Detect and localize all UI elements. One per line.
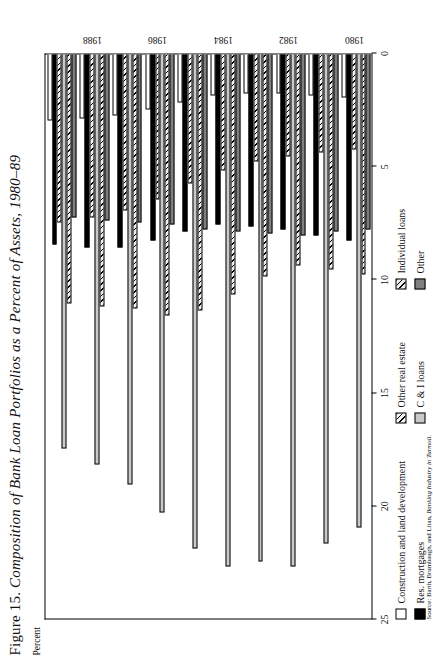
- bar: [192, 54, 197, 548]
- bar: [177, 54, 182, 102]
- bar: [230, 54, 235, 294]
- source-note: Source: Barth, Brumbaugh, and Litan, Ban…: [424, 434, 431, 619]
- value-tick-label: 5: [378, 164, 389, 169]
- bar: [248, 54, 253, 226]
- bar: [280, 54, 285, 229]
- bar: [267, 54, 272, 233]
- bar: [145, 54, 150, 109]
- bars-container: [45, 54, 371, 618]
- bar: [159, 54, 164, 512]
- value-axis: 0510152025: [371, 53, 372, 619]
- legend-swatch-icon: [395, 608, 406, 619]
- bar: [308, 54, 313, 95]
- bar: [47, 54, 52, 120]
- legend-item: Individual loans: [392, 208, 411, 289]
- legend-item: Construction and land development: [392, 461, 411, 619]
- figure-title-text: Composition of Bank Loan Portfolios as a…: [6, 154, 22, 587]
- bar: [94, 54, 99, 464]
- legend-label: C & I loans: [414, 361, 425, 407]
- bar: [341, 54, 346, 97]
- year-label: 1982: [279, 34, 298, 44]
- axis-unit-label: Percent: [31, 627, 41, 656]
- value-tick-label: 20: [378, 501, 389, 511]
- bar: [84, 54, 89, 247]
- value-tick-label: 0: [378, 51, 389, 56]
- bar: [150, 54, 155, 240]
- bar: [197, 54, 202, 310]
- legend-swatch-icon: [395, 278, 406, 289]
- bar: [182, 54, 187, 231]
- bar: [132, 54, 137, 308]
- legend-item: Other: [411, 250, 430, 289]
- value-tick: [371, 505, 376, 506]
- bar: [300, 54, 305, 235]
- legend-label: Other: [414, 250, 425, 273]
- bar: [285, 54, 290, 156]
- year-label: 1986: [148, 34, 167, 44]
- legend-swatch-icon: [414, 278, 425, 289]
- bar: [295, 54, 300, 265]
- bar: [333, 54, 338, 231]
- legend-swatch-icon: [414, 608, 425, 619]
- bar: [365, 54, 370, 229]
- figure-title: Figure 15. Composition of Bank Loan Port…: [6, 154, 23, 655]
- bar: [328, 54, 333, 269]
- value-tick-label: 25: [378, 614, 389, 624]
- bar: [262, 54, 267, 276]
- value-tick-label: 15: [378, 388, 389, 398]
- bar: [253, 54, 258, 161]
- bar: [127, 54, 132, 484]
- rotated-figure-stage: Figure 15. Composition of Bank Loan Port…: [0, 0, 433, 663]
- figure-number: Figure 15.: [6, 591, 22, 655]
- bar: [225, 54, 230, 566]
- bar: [210, 54, 215, 95]
- year-label: 1988: [83, 34, 102, 44]
- bar: [187, 54, 192, 183]
- bar: [56, 54, 61, 222]
- bar: [220, 54, 225, 170]
- bar: [71, 54, 76, 217]
- value-tick: [371, 165, 376, 166]
- bar: [313, 54, 318, 235]
- bar: [117, 54, 122, 247]
- bar: [243, 54, 248, 93]
- bar: [164, 54, 169, 315]
- bar: [52, 54, 57, 244]
- bar: [202, 54, 207, 229]
- bar: [61, 54, 66, 448]
- legend-label: Other real estate: [395, 341, 406, 407]
- year-label: 1980: [344, 34, 363, 44]
- legend-label: Construction and land development: [395, 461, 406, 603]
- bar: [318, 54, 323, 152]
- legend-item: Other real estate: [392, 341, 411, 423]
- value-tick: [371, 618, 376, 619]
- bar: [137, 54, 142, 222]
- bar: [66, 54, 71, 303]
- bar: [79, 54, 84, 118]
- bar: [356, 54, 361, 527]
- bar: [155, 54, 160, 199]
- bar: [99, 54, 104, 306]
- source-work: Banking Industry in Turmoil.: [424, 434, 431, 513]
- bar: [351, 54, 356, 149]
- bar: [89, 54, 94, 217]
- bar: [361, 54, 366, 274]
- year-label: 1984: [213, 34, 232, 44]
- bar: [290, 54, 295, 566]
- bar: [122, 54, 127, 210]
- figure-page: Figure 15. Composition of Bank Loan Port…: [0, 0, 433, 663]
- source-prefix: Source:: [424, 598, 431, 619]
- value-tick: [371, 392, 376, 393]
- legend-label: Res. mortgages: [414, 541, 425, 603]
- legend-swatch-icon: [395, 412, 406, 423]
- value-tick-label: 10: [378, 274, 389, 284]
- legend-label: Individual loans: [395, 208, 406, 273]
- value-tick: [371, 52, 376, 53]
- bar: [276, 54, 281, 93]
- bar: [104, 54, 109, 220]
- bar: [169, 54, 174, 224]
- legend-item: C & I loans: [411, 361, 430, 423]
- bar: [235, 54, 240, 231]
- bar: [215, 54, 220, 224]
- bar: [258, 54, 263, 561]
